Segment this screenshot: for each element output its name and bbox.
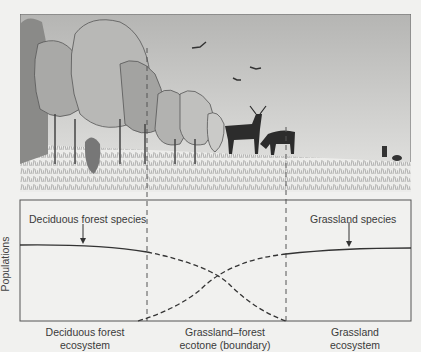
region-grassland-label: Grassland ecosystem	[310, 326, 400, 352]
grassland-species-curve-solid	[286, 248, 411, 254]
grass-species-label: Grassland species	[310, 213, 396, 226]
forest-species-curve-solid	[20, 245, 147, 252]
forest-species-label: Deciduous forest species	[29, 213, 146, 226]
region-forest-label: Deciduous forest ecosystem	[40, 326, 130, 352]
region-ecotone-label: Grassland–forest ecotone (boundary)	[170, 326, 280, 352]
ecosystem-illustration	[20, 14, 411, 192]
forest-species-curve-dashed	[147, 252, 286, 321]
grassland-species-curve-dashed	[138, 254, 286, 321]
y-axis-label: Populations	[0, 237, 11, 292]
